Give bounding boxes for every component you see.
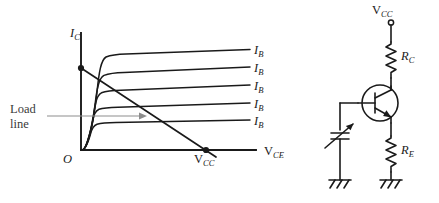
- ground-symbol-source: [329, 180, 351, 188]
- npn-transistor: [358, 85, 398, 123]
- curve-label-ib-3: IB: [253, 79, 264, 95]
- transistor-loadline-figure: IC VCE O VCC Load line IB IB IB IB IB VC…: [0, 0, 439, 203]
- characteristics-graph: IC VCE O VCC Load line IB IB IB IB IB: [10, 26, 285, 168]
- origin-label: O: [63, 152, 72, 166]
- bias-circuit: VCC RC: [325, 3, 415, 188]
- emitter-resistor-label: RE: [400, 143, 415, 159]
- curve-label-ib-4: IB: [253, 97, 264, 113]
- y-axis-label: IC: [69, 26, 80, 42]
- loadline-label-line2: line: [10, 117, 29, 131]
- curve-label-ib-1: IB: [253, 43, 264, 59]
- curve-ib-3: [82, 85, 250, 150]
- diagram-canvas: IC VCE O VCC Load line IB IB IB IB IB VC…: [0, 0, 439, 203]
- transistor-collector-lead: [375, 90, 391, 98]
- curve-ib-4: [82, 103, 250, 150]
- emitter-resistor: [386, 136, 396, 172]
- x-axis-label: VCE: [264, 144, 285, 160]
- curve-ib-1: [82, 50, 250, 151]
- collector-resistor-label: RC: [400, 49, 415, 65]
- supply-label: VCC: [372, 3, 393, 19]
- transistor-emitter-arrow: [383, 110, 391, 117]
- loadline-label-line1: Load: [10, 102, 36, 116]
- characteristic-curves: [82, 50, 250, 151]
- loadline-x-intercept-dot: [203, 147, 209, 153]
- curve-label-ib-5: IB: [253, 114, 264, 130]
- collector-resistor: [386, 42, 396, 78]
- loadline-pointer: [47, 112, 147, 119]
- curve-label-ib-2: IB: [253, 61, 264, 77]
- loadline-y-intercept-dot: [78, 65, 84, 71]
- dc-load-line: [81, 68, 216, 157]
- ground-symbol-emitter: [380, 180, 402, 188]
